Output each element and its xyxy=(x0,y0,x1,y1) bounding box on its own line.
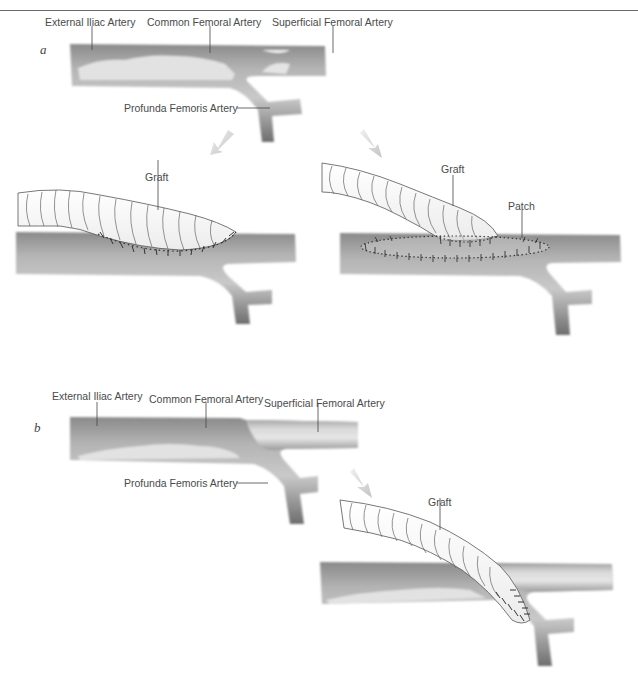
panel-letter-b: b xyxy=(34,420,41,436)
panel-b1-vessel xyxy=(320,562,613,666)
label-common-femoral-artery: Common Femoral Artery xyxy=(147,16,261,28)
label-common-femoral-artery: Common Femoral Artery xyxy=(149,393,263,405)
panel-a-anatomy xyxy=(70,44,326,142)
panel-letter-a: a xyxy=(40,42,47,58)
panel-b-anatomy xyxy=(70,417,358,524)
label-graft: Graft xyxy=(428,496,451,508)
label-superficial-femoral-artery: Superficial Femoral Artery xyxy=(272,16,393,28)
label-profunda-femoris-artery: Profunda Femoris Artery xyxy=(124,477,238,489)
arrow-icon xyxy=(350,468,372,498)
label-graft: Graft xyxy=(145,171,168,183)
illustration xyxy=(0,0,638,678)
label-external-iliac-artery: External Iliac Artery xyxy=(52,390,142,402)
panel-b1-graft xyxy=(340,500,530,623)
arrow-icon xyxy=(210,129,382,158)
label-graft: Graft xyxy=(441,163,464,175)
label-superficial-femoral-artery: Superficial Femoral Artery xyxy=(264,397,385,409)
label-profunda-femoris-artery: Profunda Femoris Artery xyxy=(124,102,238,114)
label-external-iliac-artery: External Iliac Artery xyxy=(45,16,135,28)
label-patch: Patch xyxy=(508,200,535,212)
